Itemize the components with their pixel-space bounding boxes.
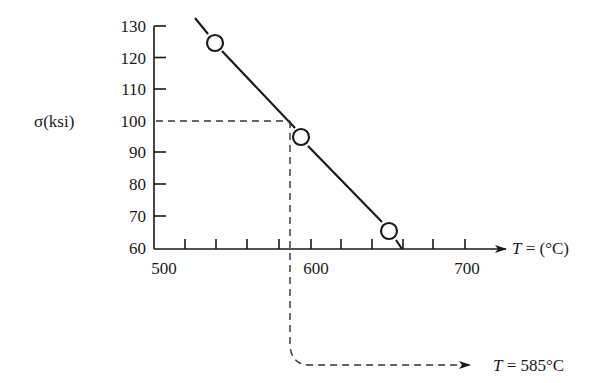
- y-tick-label-110: 110: [121, 80, 146, 99]
- y-tick-label-100: 100: [121, 112, 147, 131]
- x-axis-label: T = (°C): [512, 239, 569, 258]
- y-tick-label-130: 130: [121, 17, 147, 36]
- data-point-marker: [293, 129, 309, 145]
- result-label: T = 585°C: [493, 356, 564, 375]
- x-axis: 500 600 700 T = (°C): [151, 239, 569, 278]
- y-tick-label-60: 60: [129, 239, 146, 258]
- data-point-marker: [207, 35, 223, 51]
- stress-temperature-chart: 130 120 110 100 90 80 70 60 σ(ksi) 500 6…: [0, 0, 608, 383]
- y-tick-label-80: 80: [129, 175, 146, 194]
- y-axis-label: σ(ksi): [34, 112, 74, 131]
- y-tick-label-70: 70: [129, 207, 146, 226]
- y-tick-label-120: 120: [121, 49, 147, 68]
- y-axis: 130 120 110 100 90 80 70 60 σ(ksi): [34, 17, 166, 258]
- annotation-dashed-guide: [156, 121, 470, 365]
- data-point-marker: [381, 223, 397, 239]
- x-tick-label-700: 700: [454, 259, 480, 278]
- y-tick-label-90: 90: [129, 143, 146, 162]
- x-tick-label-500: 500: [151, 259, 177, 278]
- x-tick-label-600: 600: [303, 259, 329, 278]
